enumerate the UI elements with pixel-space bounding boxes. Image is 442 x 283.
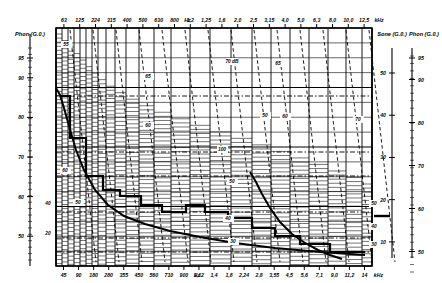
contour-label-16: 50 — [371, 201, 377, 206]
bottom-tick-label-14: 3,55 — [269, 272, 279, 278]
contour-label-15: 20 — [44, 231, 51, 236]
top-tick-label-10: 1,6 — [218, 17, 225, 23]
contour-label-11: 50 — [75, 200, 81, 205]
right-sone-axis-label: Sone (G.0.) — [377, 31, 407, 37]
top-tick-label-3: 315 — [107, 17, 116, 23]
top-tick-label-0: 63 — [61, 17, 67, 23]
top-tick-label-4: 400 — [122, 17, 132, 23]
top-tick-label-9: 1,25 — [201, 17, 211, 23]
top-tick-label-19: 12,5 — [359, 17, 369, 23]
right-phon-tick-label-3: 70 — [418, 163, 424, 169]
contour-label-13: 40 — [44, 201, 51, 206]
right-sone-tick-label-1: 40 — [379, 112, 386, 118]
bottom-tick-label-2: 180 — [89, 272, 98, 278]
bottom-tick-label-7: 710 — [165, 272, 174, 278]
loudness-diagram: 63125224315400500630800Hz1,21,251,62,02,… — [0, 0, 442, 283]
left-tick-label-3: 70 — [18, 154, 24, 160]
right-sone-tick-label-3: 20 — [379, 197, 386, 203]
right-sone-tick-label-2: 30 — [380, 154, 386, 160]
top-tick-label-6: 630 — [154, 17, 163, 23]
right-phon-tick-label-0: 95 — [418, 55, 424, 61]
contour-label-2: 65 — [145, 74, 151, 79]
bark-band-10 — [126, 99, 139, 263]
contour-label-17: 40 — [370, 224, 377, 229]
right-sone-tick-label-4: 10 — [380, 239, 386, 245]
bottom-axis-unit-khz: kHz — [374, 272, 384, 278]
top-tick-label-17: 8,0 — [329, 17, 336, 23]
left-tick-label-5: 50 — [18, 233, 24, 239]
top-tick-label-1: 125 — [75, 17, 84, 23]
contour-label-9: 50 — [262, 113, 268, 118]
zwicker-loudness-chart: 63125224315400500630800Hz1,21,251,62,02,… — [0, 0, 442, 283]
bottom-tick-label-6: 560 — [149, 272, 158, 278]
contour-label-7: 100 — [218, 147, 226, 152]
bottom-tick-label-5: 450 — [133, 272, 143, 278]
bottom-tick-label-18: 9,0 — [331, 272, 338, 278]
right-sone-tick-label-0: 50 — [380, 70, 386, 76]
left-tick-label-1: 90 — [18, 75, 24, 81]
bottom-tick-label-11: 1,8 — [225, 272, 232, 278]
right-phon-tick-label-1: 90 — [418, 77, 424, 83]
right-phon-tick-label-4: 60 — [418, 206, 424, 212]
left-tick-label-0: 95 — [18, 55, 24, 61]
bottom-tick-label-15: 4,5 — [285, 272, 293, 278]
contour-label-14: 30 — [230, 239, 236, 244]
top-tick-label-14: 4,0 — [280, 17, 288, 23]
top-tick-label-15: 5,0 — [297, 17, 304, 23]
contour-label-12: 40 — [224, 216, 231, 221]
top-tick-label-7: 800 — [170, 17, 179, 23]
contour-label-4: 60 — [62, 168, 68, 173]
bottom-tick-label-3: 280 — [103, 272, 113, 278]
top-tick-label-8: 1,2 — [187, 17, 194, 23]
bottom-tick-label-16: 5,6 — [301, 272, 308, 278]
top-tick-label-11: 2,0 — [233, 17, 241, 23]
bottom-tick-label-4: 355 — [119, 272, 128, 278]
bottom-tick-label-10: 1,4 — [210, 272, 217, 278]
contour-label-18: 30 — [371, 242, 377, 247]
contour-label-3: 65 — [275, 61, 281, 66]
top-axis-unit-khz: kHz — [374, 17, 384, 23]
top-tick-label-13: 3,15 — [264, 17, 274, 23]
bottom-tick-label-9: 1,12 — [194, 272, 204, 278]
bottom-tick-label-19: 11,2 — [345, 272, 355, 278]
contour-label-6: 60 — [282, 114, 288, 119]
top-tick-label-2: 224 — [90, 17, 100, 23]
top-tick-label-18: 10,0 — [343, 17, 353, 23]
left-tick-label-4: 60 — [18, 194, 24, 200]
right-phon-tick-label-5: 50 — [418, 249, 424, 255]
contour-label-8: 70 — [355, 117, 361, 122]
top-tick-label-5: 500 — [139, 17, 148, 23]
bottom-tick-label-1: 90 — [76, 272, 82, 278]
contour-label-10: 50 — [229, 179, 235, 184]
contour-label-5: 60 — [145, 123, 151, 128]
contour-label-0: 70 dB — [225, 59, 239, 64]
right-phon-axis-label: Phon (G.0.) — [409, 31, 439, 37]
bottom-tick-label-12: 2,24 — [238, 272, 249, 278]
right-phon-tick-label-2: 80 — [418, 120, 424, 126]
left-tick-label-2: 80 — [18, 114, 24, 120]
bottom-tick-label-0: 45 — [60, 272, 67, 278]
left-axis-label: Phon (G.0.) — [15, 31, 45, 37]
bottom-tick-label-13: 2,8 — [255, 272, 263, 278]
bottom-tick-label-20: 14 — [362, 272, 368, 278]
top-tick-label-12: 2,5 — [249, 17, 257, 23]
bottom-tick-label-17: 7,1 — [316, 272, 323, 278]
top-tick-label-16: 6,3 — [313, 17, 320, 23]
bottom-tick-label-8: 900 — [180, 272, 189, 278]
contour-label-1: 55 — [63, 42, 69, 47]
